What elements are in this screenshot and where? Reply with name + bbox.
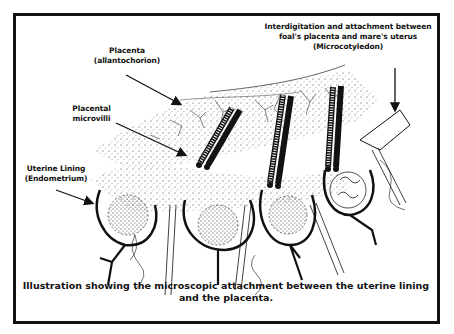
figure-caption: Illustration showing the microscopic att… xyxy=(14,280,438,304)
caption-line: and the placenta. xyxy=(14,292,438,304)
placenta-arrow xyxy=(126,75,180,104)
label-line: (allantochorion) xyxy=(92,56,162,66)
label-line: Uterine Lining xyxy=(22,164,90,174)
microvilli-label: Placental microvilli xyxy=(64,104,119,124)
label-line: (Endometrium) xyxy=(22,174,90,184)
uterine-lining-arrow xyxy=(56,190,92,203)
uterine-lining-label: Uterine Lining (Endometrium) xyxy=(22,164,90,184)
label-line: (Microcotyledon) xyxy=(258,42,438,52)
label-line: foal's placenta and mare's uterus xyxy=(258,32,438,42)
caption-line: Illustration showing the microscopic att… xyxy=(14,280,438,292)
label-line: Interdigitation and attachment between xyxy=(258,22,438,32)
microcotyledon-label: Interdigitation and attachment between f… xyxy=(258,22,438,52)
placenta-label: Placenta (allantochorion) xyxy=(92,46,162,66)
label-line: Placenta xyxy=(92,46,162,56)
label-line: Placental xyxy=(64,104,119,114)
label-line: microvilli xyxy=(64,114,119,124)
maternal-tissue xyxy=(360,110,410,150)
